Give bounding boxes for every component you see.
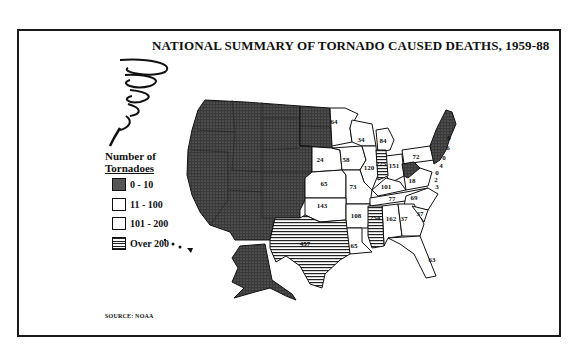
label-ne-4: 4 bbox=[439, 162, 443, 170]
label-al: 162 bbox=[386, 215, 397, 223]
legend-item-101-200: 101 - 200 bbox=[112, 216, 168, 230]
label-ia: 58 bbox=[343, 156, 351, 164]
label-nc: 69 bbox=[411, 194, 419, 202]
label-la: 65 bbox=[351, 242, 359, 250]
swatch-dark-icon bbox=[112, 178, 126, 191]
label-oh: 151 bbox=[389, 162, 400, 170]
label-in: 225 bbox=[376, 160, 387, 168]
label-ne: 24 bbox=[317, 156, 325, 164]
label-mo: 73 bbox=[350, 183, 358, 191]
label-mi: 84 bbox=[380, 137, 388, 145]
source-note: SOURCE: NOAA bbox=[105, 313, 154, 319]
legend-item-11-100: 11 - 100 bbox=[112, 197, 163, 211]
label-ky: 101 bbox=[381, 183, 392, 191]
legend-item-over-200: Over 200 bbox=[112, 236, 169, 250]
legend-title: Number of Tornadoes bbox=[105, 150, 156, 174]
label-mn: 64 bbox=[331, 118, 339, 126]
label-ar: 108 bbox=[351, 212, 362, 220]
swatch-white-icon bbox=[112, 217, 126, 230]
us-map: 64 34 84 24 58 120 225 151 72 65 73 101 … bbox=[0, 0, 578, 354]
swatch-white-icon bbox=[112, 198, 126, 211]
label-pa: 72 bbox=[413, 153, 421, 161]
label-tn: 77 bbox=[389, 195, 397, 203]
label-sc: 37 bbox=[417, 210, 425, 218]
label-ms: 254 bbox=[370, 214, 381, 222]
label-va: 18 bbox=[409, 177, 417, 185]
label-ok: 143 bbox=[317, 202, 328, 210]
label-ne-1: 8 bbox=[447, 134, 451, 142]
label-ks: 65 bbox=[321, 180, 329, 188]
state-texas bbox=[270, 215, 350, 288]
label-tx: 457 bbox=[300, 240, 311, 248]
label-fl: 63 bbox=[429, 256, 437, 264]
swatch-stripe-icon bbox=[112, 237, 126, 250]
label-il: 120 bbox=[364, 164, 375, 172]
state-mississippi bbox=[368, 206, 384, 248]
label-ne-2: 6 bbox=[446, 144, 450, 152]
label-ne-3: 0 bbox=[442, 154, 446, 162]
label-wi: 34 bbox=[358, 136, 366, 144]
tornado-funnel-icon bbox=[110, 60, 167, 146]
legend-item-0-10: 0 - 10 bbox=[112, 177, 153, 191]
label-ga: 37 bbox=[401, 215, 409, 223]
label-ne-7: 3 bbox=[435, 183, 439, 191]
